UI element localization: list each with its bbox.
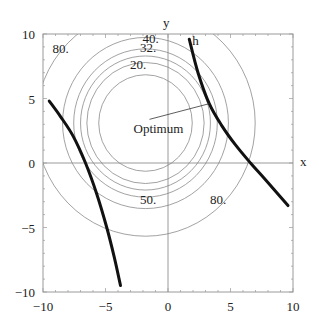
contour-label: 80. xyxy=(210,192,226,207)
x-tick-label: 5 xyxy=(227,299,234,314)
y-axis-label: y xyxy=(163,15,170,30)
axes xyxy=(43,34,293,292)
x-tick-label: −5 xyxy=(99,299,113,314)
y-tick-label: 0 xyxy=(29,156,36,171)
y-tick-label: −5 xyxy=(21,221,35,236)
annotation-leader-line xyxy=(150,104,210,120)
contour-label: 40. xyxy=(142,31,158,46)
x-axis-label: x xyxy=(300,154,307,169)
contour-label: 20. xyxy=(130,57,146,72)
y-tick-label: 5 xyxy=(29,92,36,107)
x-tick-label: 0 xyxy=(165,299,172,314)
contour-label: 50. xyxy=(140,192,156,207)
constraint-curves: h xyxy=(49,33,288,285)
annotation-label: Optimum xyxy=(134,121,184,136)
x-tick-label: −10 xyxy=(33,299,53,314)
x-tick-label: 10 xyxy=(287,299,300,314)
y-tick-label: 10 xyxy=(22,27,35,42)
contour-label: 80. xyxy=(52,41,68,56)
contour-chart: h Optimum −10−50510−10−50510 x y 20.32.4… xyxy=(0,0,319,327)
annotations: Optimum xyxy=(134,104,210,137)
y-tick-label: −10 xyxy=(15,285,35,300)
